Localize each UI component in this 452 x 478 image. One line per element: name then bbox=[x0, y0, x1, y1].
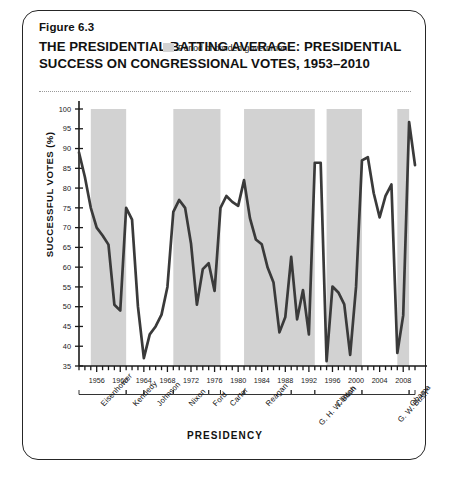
svg-text:100: 100 bbox=[59, 105, 71, 114]
figure-frame: Figure 6.3 THE PRESIDENTIAL BATTING AVER… bbox=[22, 10, 426, 460]
svg-text:80: 80 bbox=[63, 184, 71, 193]
line-chart: 3540455055606570758085909510019561960196… bbox=[23, 11, 427, 431]
legend-label: Period of divided government bbox=[178, 43, 290, 53]
svg-text:1972: 1972 bbox=[183, 376, 199, 385]
svg-text:65: 65 bbox=[63, 243, 71, 252]
svg-text:2008: 2008 bbox=[395, 376, 411, 385]
svg-text:75: 75 bbox=[63, 204, 71, 213]
svg-text:90: 90 bbox=[63, 144, 71, 153]
svg-text:1992: 1992 bbox=[301, 376, 317, 385]
svg-text:35: 35 bbox=[63, 362, 71, 371]
divided-government-band bbox=[91, 109, 126, 366]
y-axis-label: SUCCESSFUL VOTES (%) bbox=[44, 120, 55, 270]
svg-text:1980: 1980 bbox=[230, 376, 246, 385]
svg-text:50: 50 bbox=[63, 302, 71, 311]
svg-text:1976: 1976 bbox=[207, 376, 223, 385]
svg-text:85: 85 bbox=[63, 164, 71, 173]
divided-government-band bbox=[327, 109, 362, 366]
svg-text:60: 60 bbox=[63, 263, 71, 272]
svg-text:1956: 1956 bbox=[89, 376, 105, 385]
divided-government-band bbox=[173, 109, 220, 366]
svg-text:1984: 1984 bbox=[254, 376, 270, 385]
svg-text:2004: 2004 bbox=[372, 376, 388, 385]
chart-plot-area: Period of divided government 35404550556… bbox=[23, 11, 427, 461]
svg-text:1996: 1996 bbox=[324, 376, 340, 385]
svg-text:95: 95 bbox=[63, 124, 71, 133]
svg-text:40: 40 bbox=[63, 342, 71, 351]
svg-text:45: 45 bbox=[63, 322, 71, 331]
x-axis-label: PRESIDENCY bbox=[23, 430, 427, 441]
svg-text:70: 70 bbox=[63, 223, 71, 232]
svg-text:55: 55 bbox=[63, 283, 71, 292]
legend-swatch bbox=[163, 43, 174, 52]
